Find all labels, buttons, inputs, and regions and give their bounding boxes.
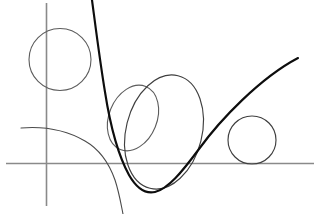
thin-curves-group (21, 128, 123, 214)
conics-group (29, 29, 276, 198)
figure-canvas (0, 0, 317, 214)
geometry-sketch-svg (0, 0, 317, 214)
ellipse-large-tilted (113, 67, 215, 198)
circle-right-tangent (228, 116, 276, 164)
axes-group (6, 3, 314, 206)
ellipse-small-tilted (98, 77, 168, 158)
thin-decaying-curve (21, 128, 123, 214)
circle-top-left (29, 29, 91, 91)
